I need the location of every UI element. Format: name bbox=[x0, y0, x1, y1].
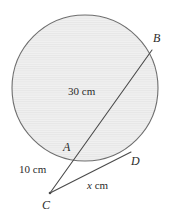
vertex-label-c: C bbox=[42, 199, 50, 211]
vertex-label-b: B bbox=[153, 32, 160, 44]
vertex-label-a: A bbox=[63, 141, 70, 153]
length-label-cd-unit: cm bbox=[92, 179, 108, 191]
length-label-ab: 30 cm bbox=[68, 86, 95, 97]
vertex-label-d: D bbox=[131, 155, 140, 167]
vertex-point-c bbox=[49, 192, 52, 195]
length-label-ca: 10 cm bbox=[19, 164, 46, 175]
geometry-figure: A B C D 30 cm 10 cm x cm bbox=[0, 0, 176, 220]
length-label-cd: x cm bbox=[87, 180, 108, 191]
